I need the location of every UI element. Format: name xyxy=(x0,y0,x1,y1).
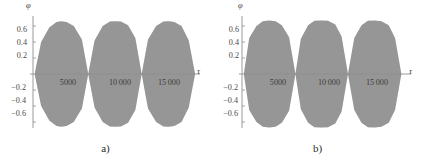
figure-root: φ τ 0.6 0.4 0.2 −0.2 −0.4 −0.6 5000 10 0… xyxy=(0,0,423,158)
y-tick-label: −0.2 xyxy=(212,83,238,92)
x-axis-label-a: τ xyxy=(197,66,200,76)
y-tick-label: 0.2 xyxy=(213,51,239,60)
y-tick-label: −0.4 xyxy=(0,96,26,105)
y-tick-label: −0.6 xyxy=(0,109,26,118)
x-tick-label: 10 000 xyxy=(310,78,348,87)
y-tick-label: −0.2 xyxy=(0,83,26,92)
plot-panel-a: φ τ 0.6 0.4 0.2 −0.2 −0.4 −0.6 5000 10 0… xyxy=(0,0,211,158)
y-tick-label: 0.4 xyxy=(213,38,239,47)
plot-area-a xyxy=(0,0,211,134)
y-tick-label: 0.6 xyxy=(1,25,27,34)
y-tick-label: −0.6 xyxy=(212,109,238,118)
x-tick-label: 15 000 xyxy=(358,78,396,87)
plot-panel-b: φ τ 0.6 0.4 0.2 −0.2 −0.4 −0.6 5000 10 0… xyxy=(212,0,423,158)
y-axis-label-a: φ xyxy=(26,0,31,10)
x-tick-label: 15 000 xyxy=(150,78,188,87)
y-tick-label: 0.6 xyxy=(213,25,239,34)
y-tick-label: 0.2 xyxy=(1,51,27,60)
plot-area-b xyxy=(212,0,423,134)
y-axis-label-b: φ xyxy=(238,0,243,10)
panel-caption-a: a) xyxy=(0,142,211,154)
x-tick-label: 5000 xyxy=(52,78,84,87)
y-tick-label: 0.4 xyxy=(1,38,27,47)
panel-caption-b: b) xyxy=(212,142,423,154)
y-tick-label: −0.4 xyxy=(212,96,238,105)
plot-canvas-b xyxy=(212,0,423,134)
x-axis-label-b: τ xyxy=(409,66,412,76)
x-tick-label: 5000 xyxy=(262,78,294,87)
plot-canvas-a xyxy=(0,0,211,134)
x-tick-label: 10 000 xyxy=(101,78,139,87)
